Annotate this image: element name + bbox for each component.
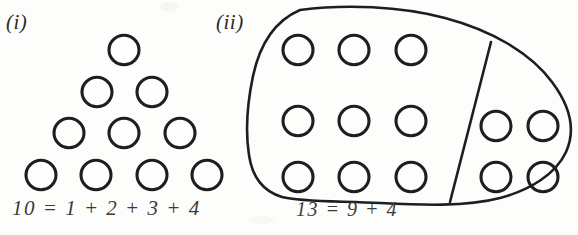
counter-circle <box>81 160 111 189</box>
counter-circle-left-group <box>396 162 426 191</box>
scan-smudge <box>160 2 178 12</box>
counter-circle <box>26 160 56 189</box>
counter-circle <box>165 118 195 147</box>
counter-circle <box>82 77 112 106</box>
counter-circle-left-group <box>283 35 313 64</box>
counter-circle-left-group <box>396 106 426 135</box>
counter-circle-left-group <box>339 106 369 135</box>
counter-circle-right-group <box>481 111 511 140</box>
counter-circle-right-group <box>481 162 511 191</box>
counter-circle <box>137 77 167 106</box>
equation-partition: 13 = 9 + 4 <box>296 198 398 221</box>
triangular-number-group <box>26 35 222 189</box>
counter-circle-left-group <box>339 35 369 64</box>
partitioned-blob-group <box>247 7 571 205</box>
partition-divider-line <box>450 42 491 202</box>
panel-label-i: (i) <box>6 10 27 35</box>
counter-circle-left-group <box>396 35 426 64</box>
equation-triangular-number: 10 = 1 + 2 + 3 + 4 <box>12 196 201 221</box>
counter-circle-right-group <box>528 111 558 140</box>
counter-circle <box>137 160 167 189</box>
counter-circle-left-group <box>283 162 313 191</box>
panel-label-ii: (ii) <box>216 10 244 35</box>
counter-circle <box>109 35 139 64</box>
counter-circle-left-group <box>339 162 369 191</box>
counter-circle <box>192 160 222 189</box>
scan-smudge <box>248 216 274 224</box>
counter-circle-left-group <box>283 106 313 135</box>
counter-circle <box>109 118 139 147</box>
counter-circle <box>54 118 84 147</box>
figure-container: (i) (ii) 10 = 1 + 2 + 3 + 4 13 = 9 + 4 <box>0 0 578 235</box>
